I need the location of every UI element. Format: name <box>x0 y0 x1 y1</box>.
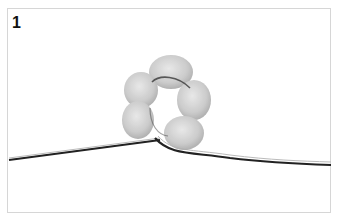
beads-on-wire-icon <box>0 0 343 220</box>
